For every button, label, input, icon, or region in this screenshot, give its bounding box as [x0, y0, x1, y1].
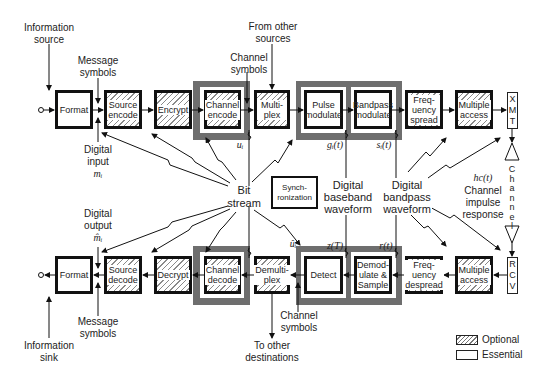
- frequency-despread-box: Freq- uency despread: [405, 256, 443, 294]
- encrypt-box: Encrypt: [154, 90, 192, 129]
- bit-stream-label: Bit stream: [226, 184, 262, 210]
- message-symbols-bottom-label: Message symbols: [75, 316, 121, 340]
- legend-optional-label: Optional: [482, 334, 519, 346]
- synchronization-box: Synch- ronization: [271, 176, 318, 209]
- r-t-label: r(t): [377, 240, 395, 252]
- xmt-box: X M T: [507, 92, 518, 129]
- u-i-hat-label: ûᵢ: [286, 238, 300, 250]
- digital-bandpass-waveform-label: Digital bandpass waveform: [382, 179, 432, 215]
- digital-communication-block-diagram: Format Source encode Encrypt Channel enc…: [0, 0, 547, 381]
- frequency-spread-box: Freq- uency spread: [405, 90, 443, 129]
- rcv-box: R C V: [507, 257, 518, 294]
- format-box-tx: Format: [55, 90, 93, 129]
- multiple-access-box-tx: Multiple access: [455, 90, 493, 129]
- decrypt-box: Decrypt: [154, 256, 192, 294]
- message-symbols-top-label: Message symbols: [75, 55, 121, 79]
- digital-output-label: Digital output: [80, 208, 116, 232]
- information-sink-label: Information sink: [16, 340, 82, 364]
- z-T-label: z(T): [324, 240, 346, 252]
- digital-input-symbol: mᵢ: [88, 168, 108, 180]
- s-i-t-label: sᵢ(t): [374, 139, 394, 151]
- legend-essential-swatch: [456, 350, 478, 360]
- from-other-sources-label: From other sources: [243, 21, 303, 45]
- multiplex-box: Multi- plex: [254, 90, 290, 129]
- source-decode-box: Source decode: [104, 256, 142, 294]
- channel-symbols-bottom-label: Channel symbols: [276, 310, 322, 334]
- legend-essential-label: Essential: [482, 349, 523, 361]
- u-i-label: uᵢ: [233, 139, 247, 151]
- digital-output-symbol: m̂ᵢ: [88, 232, 108, 244]
- channel-encode-box: Channel encode: [204, 90, 241, 129]
- channel-impulse-symbol: hс(t): [470, 172, 496, 184]
- pulse-modulate-box: Pulse modulate: [304, 90, 343, 129]
- source-encode-box: Source encode: [104, 90, 142, 129]
- bandpass-modulate-box: Bandpass modulate: [354, 90, 392, 129]
- to-other-destinations-label: To other destinations: [236, 340, 308, 364]
- channel-symbols-top-label: Channel symbols: [226, 52, 272, 76]
- format-box-rx: Format: [55, 256, 93, 294]
- channel-decode-box: Channel decode: [204, 256, 241, 294]
- legend-optional-swatch: [456, 335, 478, 345]
- demultiplex-box: Demulti- plex: [254, 256, 290, 294]
- multiple-access-box-rx: Multiple access: [455, 256, 493, 294]
- detect-box: Detect: [304, 256, 343, 294]
- information-source-label: Information source: [16, 22, 82, 46]
- g-i-t-label: gᵢ(t): [325, 139, 345, 151]
- digital-input-label: Digital input: [80, 144, 116, 168]
- channel-vertical-label: C h a n n e l: [507, 165, 517, 232]
- channel-impulse-response-label: Channel impulse response: [460, 185, 506, 221]
- demodulate-sample-box: Demod- ulate & Sample: [354, 256, 392, 294]
- digital-baseband-waveform-label: Digital baseband waveform: [322, 179, 374, 215]
